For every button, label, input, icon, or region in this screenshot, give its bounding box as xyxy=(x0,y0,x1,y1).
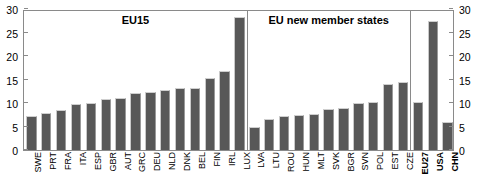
axis-tick-mark xyxy=(449,32,453,33)
y-axis-left: 051015202530 xyxy=(0,0,20,182)
y-axis-right-tick-label: 20 xyxy=(459,52,471,63)
x-label-dnk: DNK xyxy=(183,152,192,171)
x-label-swe: SWE xyxy=(34,152,43,173)
x-label-esp: ESP xyxy=(94,152,103,170)
bar-cze xyxy=(398,82,408,150)
axis-tick-mark xyxy=(24,149,28,150)
x-label-irl: IRL xyxy=(228,152,237,166)
bar-fin xyxy=(205,78,215,150)
bar-est xyxy=(383,84,393,150)
axis-tick-mark xyxy=(24,8,28,9)
bar-grc xyxy=(130,93,140,150)
y-axis-right-tick-label: 30 xyxy=(459,5,471,16)
bar-esp xyxy=(86,103,96,150)
x-label-ltu: LTU xyxy=(272,152,281,168)
x-label-chn: CHN xyxy=(451,152,460,172)
bar-nld xyxy=(160,90,170,150)
y-axis-left-tick-label: 0 xyxy=(12,146,18,157)
y-axis-left-tick-label: 20 xyxy=(6,52,18,63)
group-title-eu15: EU15 xyxy=(24,14,247,26)
x-label-mlt: MLT xyxy=(317,152,326,169)
bar-rou xyxy=(279,116,289,150)
bar-mlt xyxy=(309,114,319,150)
x-label-prt: PRT xyxy=(49,152,58,170)
bar-svn xyxy=(353,103,363,150)
bar-usa xyxy=(428,21,438,150)
bar-prt xyxy=(41,113,51,150)
axis-tick-mark xyxy=(24,55,28,56)
group-title-eu-new: EU new member states xyxy=(247,14,410,26)
x-label-svn: SVN xyxy=(361,152,370,171)
axis-tick-mark xyxy=(449,149,453,150)
axis-tick-mark xyxy=(24,32,28,33)
bar-bgr xyxy=(338,108,348,150)
y-axis-left-tick-label: 25 xyxy=(6,29,18,40)
y-axis-left-tick-label: 5 xyxy=(12,123,18,134)
x-label-usa: USA xyxy=(436,152,445,171)
x-label-nld: NLD xyxy=(168,152,177,170)
x-label-est: EST xyxy=(391,152,400,170)
bar-pol xyxy=(368,102,378,150)
x-axis-category-labels: SWEPRTFRAITAESPGBRAUTGRCDEUNLDDNKBELFINI… xyxy=(23,152,454,182)
axis-tick-mark xyxy=(449,102,453,103)
axis-tick-mark xyxy=(449,55,453,56)
x-label-gbr: GBR xyxy=(109,152,118,172)
y-axis-right-tick-label: 10 xyxy=(459,99,471,110)
bar-swe xyxy=(26,116,36,150)
axis-tick-mark xyxy=(449,79,453,80)
bar-deu xyxy=(145,92,155,150)
x-label-svk: SVK xyxy=(332,152,341,170)
bar-eu27 xyxy=(413,102,423,150)
axis-tick-mark xyxy=(449,126,453,127)
plot-area: EU15EU new member states xyxy=(23,10,454,151)
x-label-bgr: BGR xyxy=(347,152,356,172)
x-label-eu27: EU27 xyxy=(421,152,430,175)
x-label-hun: HUN xyxy=(302,152,311,172)
bar-aut xyxy=(115,98,125,150)
bar-dnk xyxy=(175,88,185,150)
y-axis-left-tick-label: 10 xyxy=(6,99,18,110)
bar-irl xyxy=(219,71,229,150)
axis-tick-mark xyxy=(449,8,453,9)
x-label-rou: ROU xyxy=(287,152,296,172)
bar-svk xyxy=(323,109,333,150)
x-label-ita: ITA xyxy=(79,152,88,165)
bar-lux xyxy=(234,17,244,150)
bar-gbr xyxy=(101,99,111,150)
x-label-fra: FRA xyxy=(64,152,73,170)
group-divider xyxy=(247,11,248,150)
x-label-cze: CZE xyxy=(406,152,415,170)
bar-series xyxy=(24,11,453,150)
x-label-bel: BEL xyxy=(198,152,207,169)
bar-lva xyxy=(249,127,259,151)
x-label-fin: FIN xyxy=(213,152,222,167)
y-axis-left-tick-label: 30 xyxy=(6,5,18,16)
axis-tick-mark xyxy=(24,102,28,103)
group-divider xyxy=(410,11,411,150)
axis-tick-mark xyxy=(24,126,28,127)
bar-ltu xyxy=(264,119,274,150)
x-label-lux: LUX xyxy=(243,152,252,170)
bar-chart: 051015202530 051015202530 EU15EU new mem… xyxy=(0,0,477,182)
x-label-pol: POL xyxy=(376,152,385,170)
bar-ita xyxy=(71,104,81,150)
x-label-lva: LVA xyxy=(257,152,266,168)
bar-bel xyxy=(190,88,200,150)
bar-hun xyxy=(294,115,304,150)
y-axis-right-tick-label: 25 xyxy=(459,29,471,40)
y-axis-left-tick-label: 15 xyxy=(6,76,18,87)
x-label-deu: DEU xyxy=(153,152,162,171)
x-label-aut: AUT xyxy=(124,152,133,170)
y-axis-right-tick-label: 15 xyxy=(459,76,471,87)
bar-fra xyxy=(56,110,66,150)
x-label-grc: GRC xyxy=(138,152,147,172)
axis-tick-mark xyxy=(24,79,28,80)
y-axis-right-tick-label: 5 xyxy=(459,123,465,134)
